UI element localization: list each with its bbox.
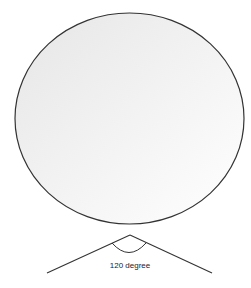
angle-figure: 120 degree <box>47 235 212 273</box>
ellipse-shape <box>15 13 244 224</box>
angle-label: 120 degree <box>110 261 151 270</box>
diagram-canvas: 120 degree <box>0 0 251 288</box>
angle-arc <box>112 243 146 253</box>
